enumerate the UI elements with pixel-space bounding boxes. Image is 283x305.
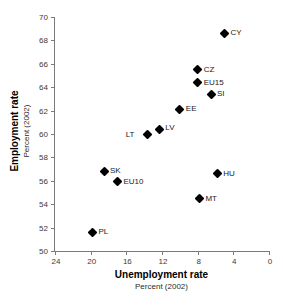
x-axis-title-main: Unemployment rate: [54, 268, 269, 281]
y-axis-tick-label: 52: [39, 223, 48, 234]
data-point-label: EU15: [204, 77, 224, 88]
x-axis-tick-label: 0: [268, 256, 272, 267]
x-axis-tick-label: 24: [52, 256, 61, 267]
data-point-label: EE: [186, 103, 197, 114]
x-axis-tick-label: 8: [196, 256, 200, 267]
y-axis-tick: 56: [51, 181, 55, 182]
x-axis-tick-label: 20: [87, 256, 96, 267]
y-axis-tick: 62: [51, 111, 55, 112]
x-axis-tick: 16: [126, 251, 127, 255]
x-axis-tick: 20: [91, 251, 92, 255]
diamond-marker-icon: [206, 89, 216, 99]
y-axis-tick-label: 62: [39, 106, 48, 117]
y-axis-tick: 58: [51, 157, 55, 158]
data-point-label: EU10: [123, 176, 143, 187]
diamond-marker-icon: [87, 227, 97, 237]
x-axis-tick: 8: [198, 251, 199, 255]
x-axis-tick: 12: [162, 251, 163, 255]
x-axis-tick-label: 4: [232, 256, 236, 267]
y-axis-tick-label: 50: [39, 246, 48, 257]
x-axis-title: Unemployment rate Percent (2002): [54, 268, 269, 292]
y-axis-tick-label: 68: [39, 35, 48, 46]
y-axis-tick-label: 70: [39, 12, 48, 23]
x-axis-title-sub: Percent (2002): [54, 281, 269, 292]
y-axis-tick-label: 66: [39, 59, 48, 70]
data-point-label: CZ: [204, 64, 215, 75]
y-axis-tick-label: 56: [39, 176, 48, 187]
x-axis-tick-label: 16: [123, 256, 132, 267]
data-point-label: SI: [217, 88, 225, 99]
data-point-label: LT: [126, 129, 135, 140]
x-axis-tick-label: 12: [159, 256, 168, 267]
data-point-label: PL: [98, 226, 108, 237]
y-axis-title: Employment rate Percent (2002): [4, 14, 32, 249]
y-axis-tick: 54: [51, 204, 55, 205]
y-axis-tick-label: 60: [39, 129, 48, 140]
diamond-marker-icon: [212, 169, 222, 179]
diamond-marker-icon: [175, 104, 185, 114]
y-axis-tick-label: 54: [39, 199, 48, 210]
y-axis-tick: 60: [51, 134, 55, 135]
y-axis-tick: 64: [51, 87, 55, 88]
y-axis-tick: 66: [51, 64, 55, 65]
data-point-label: LV: [165, 122, 174, 133]
y-axis-tick: 52: [51, 228, 55, 229]
data-point-label: MT: [205, 193, 217, 204]
y-axis-tick-label: 58: [39, 152, 48, 163]
scatter-chart: 505254565860626466687024201612840CYCZEU1…: [0, 0, 283, 305]
diamond-marker-icon: [193, 65, 203, 75]
x-axis-tick: 4: [233, 251, 234, 255]
y-axis-title-sub: Percent (2002): [22, 14, 32, 249]
diamond-marker-icon: [143, 129, 153, 139]
diamond-marker-icon: [193, 78, 203, 88]
data-point-label: HU: [223, 168, 235, 179]
diamond-marker-icon: [112, 177, 122, 187]
x-axis-tick: 24: [55, 251, 56, 255]
x-axis-tick: 0: [269, 251, 270, 255]
y-axis-tick: 68: [51, 40, 55, 41]
data-point-label: SK: [110, 165, 121, 176]
diamond-marker-icon: [194, 193, 204, 203]
y-axis-tick-label: 64: [39, 82, 48, 93]
data-point-label: CY: [230, 27, 241, 38]
y-axis-title-main: Employment rate: [9, 90, 20, 171]
diamond-marker-icon: [154, 124, 164, 134]
diamond-marker-icon: [99, 166, 109, 176]
diamond-marker-icon: [219, 28, 229, 38]
y-axis-tick: 70: [51, 17, 55, 18]
plot-area: 505254565860626466687024201612840CYCZEU1…: [54, 17, 269, 252]
